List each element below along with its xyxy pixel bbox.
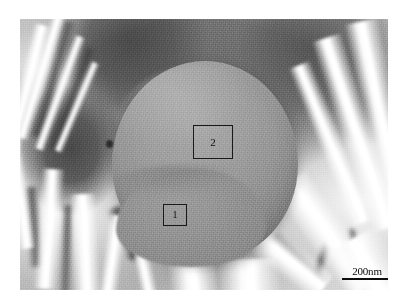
figure-root: 2 1 200nm bbox=[0, 0, 407, 304]
scale-bar-label: 200nm bbox=[342, 265, 388, 277]
crystal-needle bbox=[69, 193, 100, 290]
scale-bar: 200nm bbox=[342, 265, 388, 280]
analysis-box-1: 1 bbox=[163, 204, 187, 226]
analysis-box-2-label: 2 bbox=[210, 137, 216, 148]
sem-micrograph-image: 2 1 200nm bbox=[20, 19, 388, 290]
scale-bar-line bbox=[342, 278, 388, 280]
analysis-box-1-label: 1 bbox=[173, 210, 178, 220]
analysis-box-2: 2 bbox=[193, 125, 233, 159]
surface-speck bbox=[106, 140, 113, 148]
